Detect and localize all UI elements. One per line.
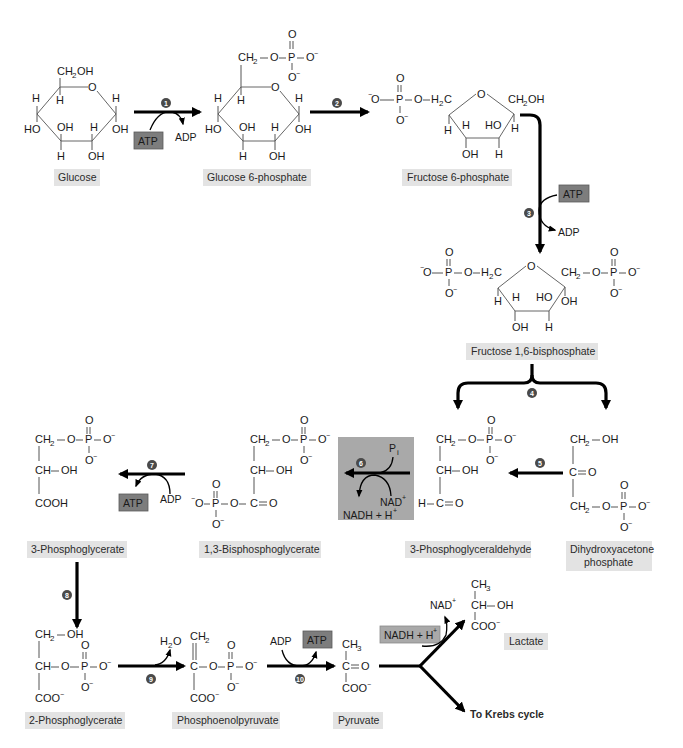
svg-text:O: O: [620, 479, 629, 491]
svg-text:C: C: [444, 93, 452, 105]
svg-text:C: C: [190, 660, 198, 672]
step4-arrow-right: [532, 375, 606, 408]
svg-text:P: P: [85, 433, 92, 445]
svg-text:OH: OH: [57, 121, 74, 133]
fructose16bp-structure: O O− P O H2C O− O CH2 O P O− O O− H H HO…: [420, 246, 640, 333]
step9-h2o-curve: [155, 650, 170, 665]
svg-text:P: P: [620, 500, 627, 512]
svg-text:C: C: [250, 497, 258, 509]
svg-text:+: +: [452, 597, 456, 604]
svg-text:O: O: [602, 500, 611, 512]
g3p-structure: O CH2 O P O− O− CH OH H C O: [418, 414, 516, 509]
svg-text:CH: CH: [35, 433, 51, 445]
svg-text:2: 2: [585, 506, 590, 515]
step10-cofactor-curve: [282, 650, 316, 666]
svg-text:2: 2: [335, 100, 339, 107]
svg-text:3: 3: [527, 210, 531, 217]
svg-text:H: H: [495, 148, 503, 160]
svg-text:−: −: [253, 659, 257, 666]
svg-text:−: −: [453, 286, 457, 293]
svg-text:OH: OH: [602, 433, 619, 445]
svg-text:4: 4: [530, 390, 534, 397]
svg-text:O: O: [270, 51, 279, 63]
pep-label: Phosphoenolpyruvate: [177, 714, 279, 726]
svg-text:O: O: [67, 433, 76, 445]
step3-arrow: [520, 115, 540, 252]
svg-text:2: 2: [205, 636, 210, 645]
svg-text:−: −: [314, 50, 318, 57]
svg-text:O: O: [592, 266, 601, 278]
glucose-structure: CH2OH O H H HO H OH OH H H OH: [24, 65, 129, 162]
svg-text:O: O: [487, 414, 496, 426]
lactate-structure: CH3 CH OH COO−: [471, 578, 514, 632]
pi-label: P: [389, 442, 396, 454]
svg-text:H: H: [56, 94, 64, 106]
svg-text:P: P: [396, 93, 403, 105]
atp-label-step1: ATP: [138, 135, 158, 147]
svg-text:CH: CH: [471, 599, 487, 611]
svg-text:−: −: [215, 691, 219, 698]
fructose6p-label: Fructose 6-phosphate: [407, 171, 509, 183]
svg-text:O: O: [209, 660, 218, 672]
svg-text:CH: CH: [35, 464, 51, 476]
glycolysis-diagram: CH2OH O H H HO H OH OH H H OH Glucose 1 …: [0, 0, 683, 748]
svg-text:O: O: [195, 497, 204, 509]
svg-text:+: +: [433, 627, 437, 634]
svg-text:COOH: COOH: [35, 497, 68, 509]
h2o-label: H: [160, 635, 168, 647]
svg-text:P: P: [610, 266, 617, 278]
svg-text:O: O: [271, 81, 280, 93]
step6-highlight-box: [338, 437, 414, 520]
krebs-arrow: [420, 666, 464, 711]
fructose6p-structure: O O− P O H2C O− O CH2OH H H HO H OH H: [368, 72, 545, 160]
glucose-label: Glucose: [58, 171, 97, 183]
svg-text:O: O: [212, 478, 221, 490]
svg-text:O: O: [85, 414, 94, 426]
svg-text:OH: OH: [528, 93, 545, 105]
svg-text:H: H: [295, 92, 303, 104]
nadh-label-lactate: NADH + H: [384, 629, 433, 641]
step3-cofactor-curve: [539, 195, 557, 230]
svg-text:CH: CH: [508, 93, 524, 105]
svg-text:H: H: [494, 295, 502, 307]
svg-text:CH: CH: [570, 500, 586, 512]
svg-text:10: 10: [296, 676, 304, 683]
svg-text:OH: OH: [276, 464, 293, 476]
svg-text:−: −: [220, 517, 224, 524]
svg-text:8: 8: [65, 592, 69, 599]
svg-text:O: O: [230, 497, 239, 509]
svg-text:COO: COO: [471, 620, 497, 632]
svg-text:OH: OH: [269, 150, 286, 162]
svg-text:CH: CH: [570, 433, 586, 445]
adp-label-step10: ADP: [270, 635, 292, 647]
atp-label-step7: ATP: [123, 497, 143, 509]
svg-text:CH: CH: [57, 65, 73, 77]
svg-text:2: 2: [265, 439, 270, 448]
svg-text:OH: OH: [61, 464, 78, 476]
svg-text:H: H: [57, 150, 65, 162]
svg-text:2: 2: [253, 57, 258, 66]
svg-text:C: C: [569, 466, 577, 478]
svg-text:7: 7: [150, 462, 154, 469]
svg-text:HO: HO: [24, 123, 41, 135]
svg-text:COO: COO: [190, 692, 216, 704]
svg-text:OH: OH: [112, 123, 129, 135]
svg-text:H: H: [90, 121, 98, 133]
svg-text:O: O: [81, 639, 90, 651]
svg-text:HO: HO: [536, 291, 553, 303]
svg-text:9: 9: [149, 676, 153, 683]
svg-text:OH: OH: [512, 321, 529, 333]
svg-text:5: 5: [538, 460, 542, 467]
svg-text:3: 3: [486, 584, 491, 593]
svg-text:−: −: [93, 453, 97, 460]
fructose16bp-label: Fructose 1,6-bisphosphate: [471, 345, 595, 357]
svg-text:OH: OH: [462, 148, 479, 160]
lactate-label: Lactate: [509, 635, 544, 647]
svg-text:O: O: [464, 266, 473, 278]
svg-text:P: P: [300, 433, 307, 445]
glucose6p-label: Glucose 6-phosphate: [207, 171, 307, 183]
svg-text:−: −: [368, 91, 372, 98]
svg-text:OH: OH: [88, 150, 105, 162]
krebs-label: To Krebs cycle: [470, 708, 544, 720]
dhap-structure: CH2 OH C O CH2 O P O− O O−: [569, 433, 650, 533]
